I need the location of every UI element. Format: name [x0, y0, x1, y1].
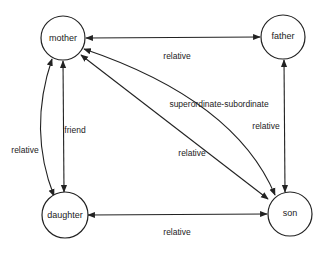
node-mother-label: mother	[49, 33, 77, 43]
node-father-label: father	[271, 31, 294, 41]
edge-label-mother-son-relative: relative	[178, 148, 206, 158]
edge-mother-son-superordinate[interactable]	[84, 49, 275, 195]
node-son-label: son	[283, 208, 298, 218]
node-mother[interactable]: mother	[41, 16, 85, 60]
edge-mother-father[interactable]	[86, 37, 260, 38]
edge-label-father-son: relative	[252, 121, 280, 131]
edge-label-mother-daughter-relative: relative	[11, 145, 39, 155]
node-daughter-label: daughter	[47, 210, 83, 220]
edge-label-mother-daughter-friend: friend	[64, 125, 86, 135]
edge-label-daughter-son: relative	[163, 227, 191, 237]
node-father[interactable]: father	[261, 15, 305, 59]
edge-mother-son-relative[interactable]	[81, 55, 268, 199]
edge-mother-daughter-relative[interactable]	[40, 59, 54, 196]
edge-label-mother-father: relative	[163, 51, 191, 61]
node-son[interactable]: son	[268, 192, 312, 236]
node-daughter[interactable]: daughter	[42, 192, 88, 238]
edge-label-mother-son-superordinate: superordinate-subordinate	[169, 99, 269, 109]
relationship-diagram: relative relative superordinate-subordin…	[0, 0, 321, 253]
edge-father-son[interactable]	[284, 60, 285, 192]
edge-daughter-son[interactable]	[88, 214, 267, 215]
